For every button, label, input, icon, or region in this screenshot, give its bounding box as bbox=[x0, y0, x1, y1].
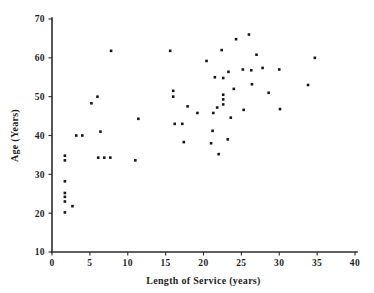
data-point bbox=[242, 68, 245, 71]
data-point bbox=[103, 156, 106, 159]
data-point bbox=[226, 138, 229, 141]
data-point bbox=[222, 103, 225, 106]
data-point bbox=[229, 116, 232, 119]
data-point bbox=[64, 211, 67, 214]
data-point bbox=[248, 33, 251, 36]
data-point bbox=[210, 142, 213, 145]
data-point bbox=[242, 109, 245, 112]
x-tick-label: 30 bbox=[274, 258, 284, 268]
data-point bbox=[196, 112, 199, 115]
data-point bbox=[214, 76, 217, 79]
x-tick-label: 10 bbox=[123, 258, 133, 268]
y-tick-label: 50 bbox=[35, 92, 45, 102]
y-tick-label: 70 bbox=[35, 14, 45, 24]
plot-canvas: 10203040506070 0510152025303540 Length o… bbox=[0, 0, 374, 293]
data-point bbox=[251, 83, 254, 86]
data-point bbox=[183, 141, 186, 144]
data-point bbox=[64, 159, 67, 162]
data-point bbox=[235, 38, 238, 41]
x-tick-label: 0 bbox=[49, 258, 54, 268]
data-point bbox=[261, 67, 264, 70]
data-point bbox=[181, 123, 184, 126]
y-tick-label: 30 bbox=[35, 170, 45, 180]
data-point bbox=[217, 153, 220, 156]
data-point bbox=[250, 69, 253, 72]
data-point bbox=[110, 50, 113, 53]
y-axis-ticks: 10203040506070 bbox=[35, 14, 52, 257]
data-point bbox=[307, 84, 310, 87]
data-point bbox=[134, 159, 137, 162]
y-tick-label: 40 bbox=[35, 131, 45, 141]
data-point bbox=[222, 77, 225, 80]
x-tick-label: 40 bbox=[350, 258, 360, 268]
data-point bbox=[64, 192, 67, 195]
data-point bbox=[205, 60, 208, 63]
data-point bbox=[233, 88, 236, 91]
axes bbox=[52, 18, 357, 252]
x-tick-label: 25 bbox=[236, 258, 246, 268]
data-points bbox=[64, 33, 317, 213]
data-point bbox=[279, 108, 282, 111]
y-tick-label: 60 bbox=[35, 53, 45, 63]
x-tick-label: 35 bbox=[312, 258, 322, 268]
y-tick-label: 10 bbox=[35, 247, 45, 257]
data-point bbox=[222, 93, 225, 96]
data-point bbox=[186, 105, 189, 108]
data-point bbox=[64, 154, 67, 157]
data-point bbox=[173, 123, 176, 126]
data-point bbox=[71, 205, 74, 208]
data-point bbox=[314, 57, 317, 60]
data-point bbox=[211, 130, 214, 133]
data-point bbox=[96, 95, 99, 98]
data-point bbox=[172, 95, 175, 98]
data-point bbox=[267, 91, 270, 94]
scatter-plot-figure: 10203040506070 0510152025303540 Length o… bbox=[0, 0, 374, 293]
data-point bbox=[75, 134, 78, 137]
data-point bbox=[255, 53, 258, 56]
data-point bbox=[99, 130, 102, 133]
data-point bbox=[97, 156, 100, 159]
data-point bbox=[216, 106, 219, 109]
x-tick-label: 20 bbox=[198, 258, 208, 268]
data-point bbox=[212, 112, 215, 115]
data-point bbox=[64, 196, 67, 199]
x-tick-label: 15 bbox=[160, 258, 170, 268]
data-point bbox=[222, 98, 225, 101]
x-tick-label: 5 bbox=[87, 258, 92, 268]
data-point bbox=[64, 200, 67, 203]
data-point bbox=[64, 180, 67, 183]
data-point bbox=[137, 118, 140, 121]
data-point bbox=[81, 134, 84, 137]
data-point bbox=[227, 71, 230, 74]
x-axis-title: Length of Service (years) bbox=[146, 275, 260, 287]
x-axis-ticks: 0510152025303540 bbox=[49, 252, 360, 268]
y-axis-title: Age (Years) bbox=[9, 109, 21, 162]
data-point bbox=[278, 68, 281, 71]
data-point bbox=[169, 50, 172, 53]
y-tick-label: 20 bbox=[35, 209, 45, 219]
data-point bbox=[220, 49, 223, 52]
data-point bbox=[172, 90, 175, 93]
data-point bbox=[109, 156, 112, 159]
data-point bbox=[90, 102, 93, 105]
